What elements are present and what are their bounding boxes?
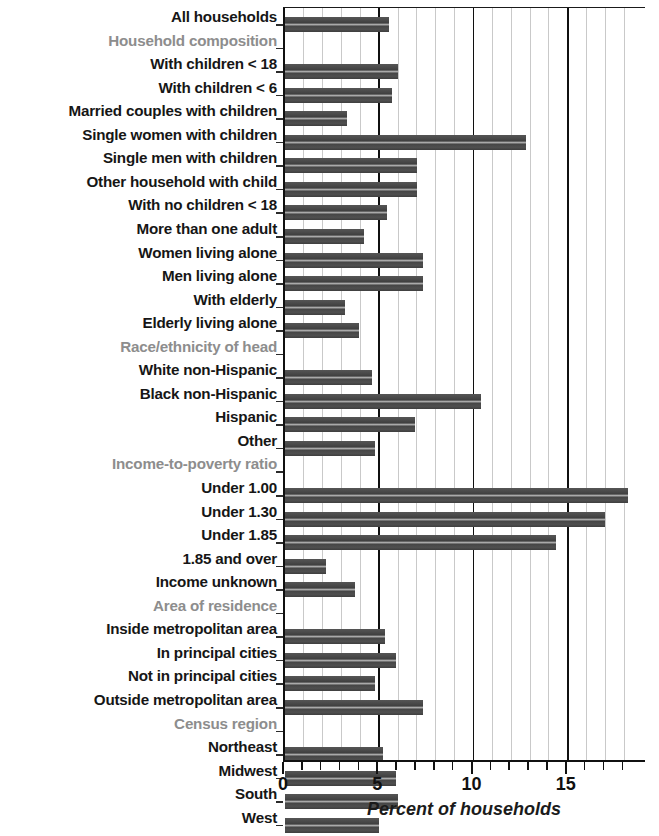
category-label: In principal cities xyxy=(0,645,277,661)
category-label: Under 1.00 xyxy=(0,480,277,496)
category-tick xyxy=(276,424,283,426)
category-tick xyxy=(276,801,283,803)
x-axis-tick-label: 10 xyxy=(461,774,481,794)
category-tick xyxy=(276,683,283,685)
gridline-minor xyxy=(435,8,436,760)
category-label: Other xyxy=(0,433,277,449)
bar xyxy=(285,229,364,244)
bar xyxy=(285,300,345,315)
bar xyxy=(285,417,415,432)
category-label: Other household with child xyxy=(0,174,277,190)
category-tick xyxy=(276,519,283,521)
category-label: White non-Hispanic xyxy=(0,362,277,378)
category-label: Women living alone xyxy=(0,245,277,261)
bar xyxy=(285,441,375,456)
category-label: Outside metropolitan area xyxy=(0,692,277,708)
bar xyxy=(285,253,423,268)
x-axis-tick-label: 5 xyxy=(372,774,382,794)
bar xyxy=(285,158,417,173)
bar xyxy=(285,182,417,197)
category-label: Married couples with children xyxy=(0,103,277,119)
category-tick xyxy=(276,283,283,285)
x-axis-tick-minor xyxy=(414,762,416,770)
category-tick xyxy=(276,566,283,568)
category-label: Men living alone xyxy=(0,268,277,284)
gridline-minor xyxy=(530,8,531,760)
category-tick xyxy=(276,260,283,262)
x-axis-tick-minor xyxy=(320,762,322,770)
plot-area xyxy=(283,8,645,760)
section-header-label: Race/ethnicity of head xyxy=(0,339,277,355)
category-tick xyxy=(276,212,283,214)
bar xyxy=(285,135,526,150)
gridline-minor xyxy=(511,8,512,760)
category-tick xyxy=(276,707,283,709)
bar xyxy=(285,111,347,126)
category-tick xyxy=(276,236,283,238)
bar xyxy=(285,276,423,291)
category-tick xyxy=(276,754,283,756)
category-label: Hispanic xyxy=(0,409,277,425)
category-tick xyxy=(276,401,283,403)
category-label: With children < 6 xyxy=(0,80,277,96)
gridline-minor xyxy=(398,8,399,760)
bar xyxy=(285,629,385,644)
category-tick xyxy=(276,354,283,356)
x-axis-tick-minor xyxy=(490,762,492,770)
category-tick xyxy=(276,71,283,73)
category-tick xyxy=(276,589,283,591)
category-label: West xyxy=(0,810,277,826)
category-tick xyxy=(276,377,283,379)
bar xyxy=(285,512,605,527)
x-axis-tick-minor xyxy=(339,762,341,770)
section-header-label: Area of residence xyxy=(0,598,277,614)
x-axis-tick-major xyxy=(376,762,378,774)
category-label: With no children < 18 xyxy=(0,197,277,213)
bar-chart: All householdsHousehold compositionWith … xyxy=(0,0,659,836)
gridline-minor xyxy=(492,8,493,760)
category-tick xyxy=(276,613,283,615)
x-axis-tick-minor xyxy=(546,762,548,770)
x-axis-tick-major xyxy=(565,762,567,774)
x-axis-tick-minor xyxy=(603,762,605,770)
category-tick xyxy=(276,48,283,50)
section-header-label: Census region xyxy=(0,716,277,732)
category-tick xyxy=(276,165,283,167)
gridline-minor xyxy=(454,8,455,760)
x-axis-tick-minor xyxy=(622,762,624,770)
bar xyxy=(285,488,628,503)
x-axis-tick-minor xyxy=(452,762,454,770)
category-label: Midwest xyxy=(0,763,277,779)
category-label: Inside metropolitan area xyxy=(0,621,277,637)
gridline-major xyxy=(473,8,475,760)
category-label: Under 1.30 xyxy=(0,504,277,520)
gridline-minor xyxy=(586,8,587,760)
category-label: South xyxy=(0,786,277,802)
category-label: Single women with children xyxy=(0,127,277,143)
gridline-major xyxy=(567,8,569,760)
bar xyxy=(285,88,392,103)
gridline-minor xyxy=(416,8,417,760)
x-axis-tick-minor xyxy=(395,762,397,770)
x-axis-tick-minor xyxy=(301,762,303,770)
bar xyxy=(285,700,423,715)
category-label-column: All householdsHousehold compositionWith … xyxy=(0,0,283,760)
x-axis-tick-minor xyxy=(584,762,586,770)
category-label: Income unknown xyxy=(0,574,277,590)
x-axis-tick-major xyxy=(282,762,284,774)
gridline-minor xyxy=(548,8,549,760)
category-label: More than one adult xyxy=(0,221,277,237)
category-label: Elderly living alone xyxy=(0,315,277,331)
category-label: 1.85 and over xyxy=(0,551,277,567)
category-label: With children < 18 xyxy=(0,56,277,72)
category-label: Not in principal cities xyxy=(0,668,277,684)
x-axis-line xyxy=(283,760,645,762)
category-tick xyxy=(276,448,283,450)
x-axis-tick-minor xyxy=(508,762,510,770)
bar xyxy=(285,394,481,409)
category-tick xyxy=(276,731,283,733)
gridline-minor xyxy=(624,8,625,760)
x-axis-tick-label: 15 xyxy=(556,774,576,794)
category-label: Single men with children xyxy=(0,150,277,166)
gridline-minor xyxy=(605,8,606,760)
